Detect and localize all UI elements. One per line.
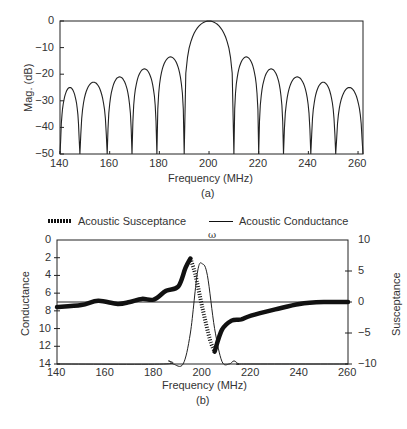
y-tick-label: 4 [45, 268, 51, 280]
y-tick-label: 2 [45, 251, 51, 263]
x-tick-label: 260 [348, 157, 366, 169]
chart-b-y2-axis-label: Susceptance [390, 272, 402, 336]
y-tick-label: 0 [45, 233, 51, 245]
chart-b-x-axis-label: Frequency (MHz) [162, 379, 247, 391]
y-tick-label: −40 [35, 120, 54, 132]
chart-b-y-axis-label: Conductance [19, 271, 31, 336]
chart-a-subcaption: (a) [201, 187, 214, 199]
x-tick-label: 240 [298, 157, 316, 169]
chart-a-sinc-curve [60, 21, 363, 154]
legend-conductance-label: Acoustic Conductance [239, 215, 348, 227]
x-tick-label: 160 [96, 366, 114, 378]
y2-tick-label: 10 [358, 233, 370, 245]
legend-conductance: Acoustic Conductance [209, 215, 348, 227]
x-tick-label: 200 [199, 157, 217, 169]
y-tick-label: −20 [35, 67, 54, 79]
legend-solid-swatch [209, 221, 233, 222]
y2-tick-label: −10 [358, 357, 377, 369]
y2-tick-label: −5 [358, 326, 371, 338]
x-tick-label: 260 [338, 366, 356, 378]
y-tick-label: 10 [39, 322, 51, 334]
x-tick-label: 240 [290, 366, 308, 378]
x-tick-label: 180 [149, 157, 167, 169]
legend-dotted-swatch [48, 219, 72, 223]
susceptance-curve [57, 259, 348, 352]
omega-annotation: ω [208, 229, 216, 240]
chart-a-x-axis-label: Frequency (MHz) [168, 172, 253, 184]
x-tick-label: 140 [47, 366, 65, 378]
x-tick-label: 220 [249, 157, 267, 169]
y-tick-label: −30 [35, 94, 54, 106]
y-tick-label: 8 [45, 304, 51, 316]
chart-a-ticks [60, 21, 358, 154]
x-tick-label: 220 [241, 366, 259, 378]
y2-tick-label: 5 [358, 264, 364, 276]
chart-b-subcaption: (b) [196, 394, 209, 406]
y-tick-label: 0 [48, 14, 54, 26]
y-tick-label: −10 [35, 41, 54, 53]
legend-susceptance: Acoustic Susceptance [48, 215, 186, 227]
x-tick-label: 180 [144, 366, 162, 378]
x-tick-label: 200 [193, 366, 211, 378]
x-tick-label: 160 [100, 157, 118, 169]
y-tick-label: 12 [39, 339, 51, 351]
chart-a-y-axis-label: Mag. (dB) [22, 64, 34, 112]
legend-susceptance-label: Acoustic Susceptance [78, 215, 186, 227]
chart-b-ticks [54, 258, 352, 364]
y-tick-label: 6 [45, 286, 51, 298]
x-tick-label: 140 [50, 157, 68, 169]
y2-tick-label: 0 [358, 295, 364, 307]
